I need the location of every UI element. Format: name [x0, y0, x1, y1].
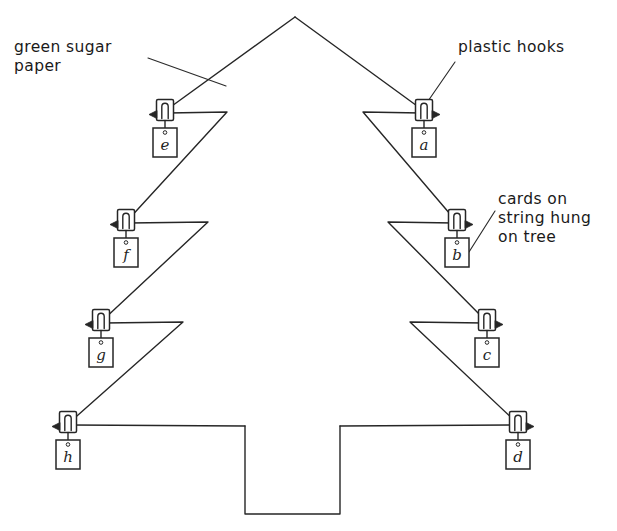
hook-card-c[interactable]: c	[475, 310, 503, 368]
diagram-canvas: .ink{fill:none;stroke:#262626;stroke-wid…	[0, 0, 617, 531]
leader-cards-on-string	[469, 211, 495, 252]
tree-diagram-svg: .ink{fill:none;stroke:#262626;stroke-wid…	[0, 0, 617, 531]
hook-barb-g	[85, 321, 93, 329]
annotation-plastic-hooks: plastic hooks	[458, 38, 565, 57]
card-letter-c: c	[483, 346, 492, 364]
card-letter-g: g	[96, 346, 106, 364]
card-letter-h: h	[63, 448, 73, 466]
hook-card-h[interactable]: h	[52, 412, 80, 470]
hook-card-a[interactable]: a	[412, 100, 440, 158]
card-letter-e: e	[161, 136, 170, 154]
annotation-cards-on-string: cards on string hung on tree	[498, 190, 591, 247]
hook-barb-h	[52, 423, 60, 431]
card-letter-a: a	[420, 136, 429, 154]
hook-card-g[interactable]: g	[85, 310, 113, 368]
leader-green-sugar-paper	[148, 58, 226, 86]
hook-card-b[interactable]: b	[445, 210, 473, 268]
hook-card-d[interactable]: d	[506, 412, 534, 470]
leader-plastic-hooks	[426, 62, 455, 104]
hook-barb-e	[149, 111, 157, 119]
card-letter-b: b	[452, 246, 462, 264]
hook-card-e[interactable]: e	[149, 100, 177, 158]
annotation-green-sugar-paper: green sugar paper	[14, 38, 112, 76]
hook-barb-b	[465, 221, 473, 229]
card-letter-d: d	[513, 448, 523, 466]
tree-trunk	[245, 426, 340, 514]
hook-barb-f	[110, 221, 118, 229]
hook-barb-c	[495, 321, 503, 329]
hook-barb-a	[432, 111, 440, 119]
hook-card-f[interactable]: f	[110, 210, 138, 268]
hook-barb-d	[526, 423, 534, 431]
